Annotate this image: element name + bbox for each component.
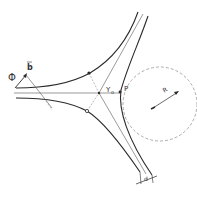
- p-label: P: [124, 85, 128, 93]
- lower-contact-dot: [85, 109, 88, 112]
- b-vector-line: [15, 75, 26, 88]
- b-vector-label: b: [27, 63, 33, 72]
- r-label: R: [161, 85, 168, 93]
- radius-arrow: [153, 92, 178, 108]
- y0-subscript: o: [111, 89, 114, 95]
- upper-arm-outer-curve: [16, 12, 138, 88]
- plateau-border-diagram: Φ b Y o P R d: [0, 0, 197, 201]
- upper-contact-dot: [87, 71, 90, 74]
- d-label: d: [144, 175, 148, 182]
- vertex-dot: [98, 92, 100, 94]
- dashed-connector-lower: [87, 93, 99, 111]
- dashed-connector-upper: [89, 73, 99, 93]
- b-perpendicular-line: [26, 75, 52, 108]
- point-p-dot: [119, 91, 122, 94]
- d-tick-right: [152, 175, 153, 183]
- lower-centerline: [99, 93, 146, 174]
- inscribed-circle: [123, 67, 197, 141]
- upper-centerline: [99, 14, 143, 93]
- center-tick: [151, 107, 155, 109]
- phi-label: Φ: [8, 72, 16, 83]
